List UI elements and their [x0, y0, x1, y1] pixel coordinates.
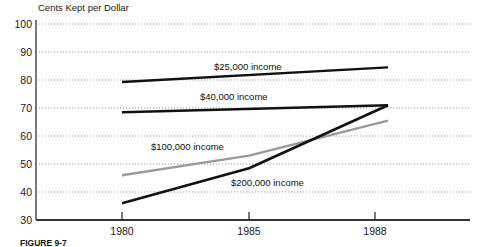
y-tick-label-50: 50 [20, 158, 32, 170]
series-label-200000: $200,000 income [231, 177, 304, 188]
x-ticks [122, 212, 375, 220]
series-label-25000: $25,000 income [214, 61, 282, 72]
y-axis-title: Cents Kept per Dollar [38, 2, 129, 13]
figure-caption-number: FIGURE 9-7 [20, 238, 67, 247]
y-tick-label-40: 40 [20, 186, 32, 198]
y-tick-label-70: 70 [20, 102, 32, 114]
y-tick-label-90: 90 [20, 46, 32, 58]
y-tick-label-80: 80 [20, 74, 32, 86]
chart-figure: Cents Kept per Dollar 100 90 80 70 60 50… [0, 0, 478, 247]
x-tick-label-1980: 1980 [110, 225, 134, 237]
y-tick-label-60: 60 [20, 130, 32, 142]
series-label-40000: $40,000 income [200, 91, 268, 102]
y-tick-label-30: 30 [20, 214, 32, 226]
series-line-40000 [122, 105, 388, 112]
x-tick-label-1988: 1988 [363, 225, 387, 237]
x-tick-label-1985: 1985 [237, 225, 261, 237]
series-label-100000: $100,000 income [151, 141, 224, 152]
y-tick-label-100: 100 [14, 18, 32, 30]
line-chart-svg: Cents Kept per Dollar 100 90 80 70 60 50… [0, 0, 478, 247]
